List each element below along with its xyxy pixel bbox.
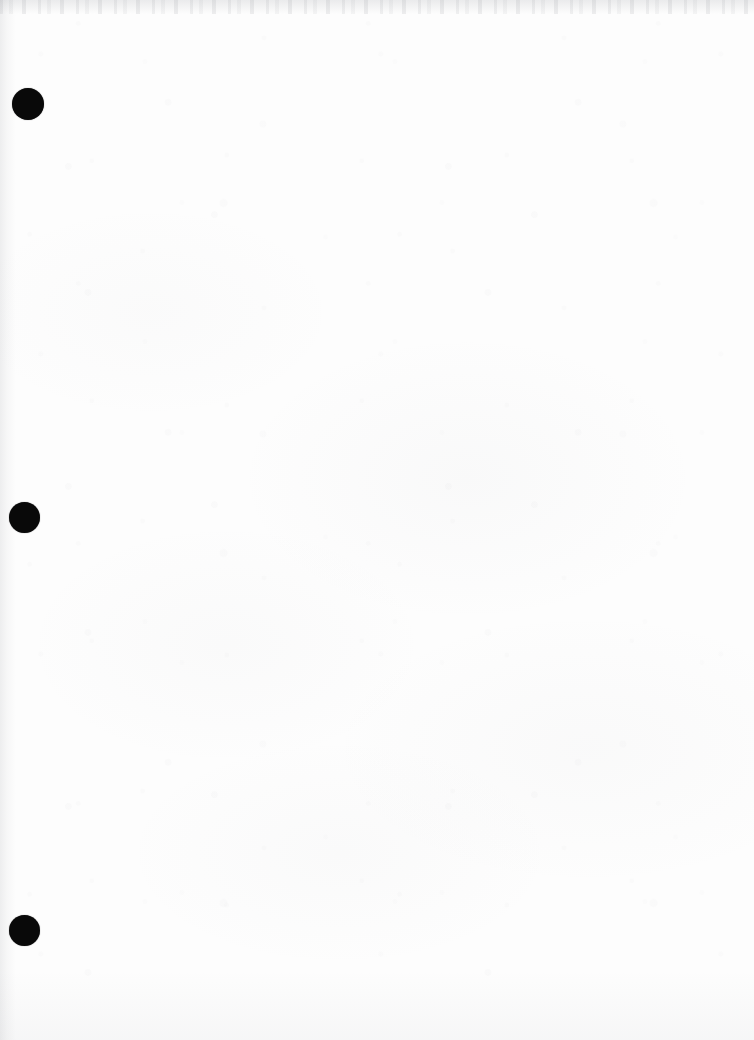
scanned-page: [0, 0, 754, 1040]
middle-punch-hole: [9, 502, 40, 533]
bottom-punch-hole: [9, 915, 40, 946]
top-punch-hole: [12, 88, 44, 120]
scan-edge-speckle-band: [0, 0, 754, 14]
page-content-area: [60, 40, 720, 1000]
